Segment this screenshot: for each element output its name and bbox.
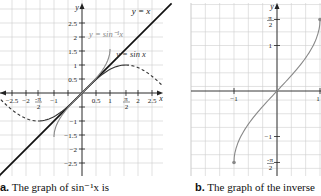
y-axis-arrow-icon [80,3,85,9]
y-tick-label-a: −2 [70,146,78,154]
x-tick-label-a: −1 [50,97,58,105]
curve-sin-x-dashed-right [126,65,163,86]
y-axis-label-a: y [74,3,79,12]
x-tick-label-a: 0.5 [92,97,101,105]
endpoint-dot-left [232,161,236,165]
x-tick-label-a: 2 [136,97,140,105]
label-y-equals-arcsin-x: y = sin⁻¹x [88,29,123,39]
x-axis-left-arrow-icon [0,91,6,96]
y-tick-label-a: −1 [70,118,78,126]
x-tick-label-b: 1 [316,95,320,103]
y-tick-label-a: 0.5 [68,76,77,84]
y-tick-label-a: −1.5 [64,132,77,140]
x-tick-label-a: 1 [108,97,112,105]
x-tick-label-a: 2.5 [148,97,157,105]
x-tick-label-a: −2.5 [6,97,19,105]
svg-text:2: 2 [125,103,129,111]
panel-b-caption: b. The graph of the inverse [195,181,315,193]
label-y-equals-sin-x: y = sin x [115,49,146,59]
x-tick-label-b: −1 [230,95,238,103]
y-tick-label-a: 2 [74,34,78,42]
y-tick-label-a: −2.5 [64,160,77,168]
panel-b-chart: y−11π21−1-π2 [191,2,321,176]
x-axis-label-a: x [158,94,163,103]
y-tick-label-a: 2.5 [68,20,77,28]
y-tick-label-b-neg-pi-over-2: -π2 [267,156,274,172]
svg-text:2: 2 [37,103,41,111]
svg-text:2: 2 [269,21,273,29]
panel-b-caption-text: The graph of the inverse [207,181,315,193]
label-y-equals-x: y = x [131,6,151,16]
svg-text:2: 2 [269,164,273,172]
y-axis-label-b: y [269,2,274,11]
panel-a-caption-letter: a. [0,181,9,193]
panel-a-chart: yx−2.5−2-π2−10.51π222.52.521.510.5−1−1.5… [0,0,172,183]
x-tick-label-a: -π2 [35,95,42,111]
panel-a-caption: a. The graph of sin⁻¹x is [0,181,109,194]
panel-b-caption-letter: b. [195,181,205,193]
y-tick-label-a: 1.5 [68,48,77,56]
x-tick-label-a: π2 [123,95,130,111]
y-axis-arrow-icon [275,3,280,9]
y-tick-label-b-pi-over-2: π2 [267,14,274,30]
y-tick-label-b: 1 [269,42,273,50]
panel-a-caption-text: The graph of sin⁻¹x is [12,181,109,193]
y-tick-label-a: 1 [74,62,78,70]
chart-canvas: yx−2.5−2-π2−10.51π222.52.521.510.5−1−1.5… [0,0,321,196]
grid-b [191,3,321,176]
x-tick-label-a: −2 [22,97,30,105]
y-tick-label-b: −1 [265,133,273,141]
